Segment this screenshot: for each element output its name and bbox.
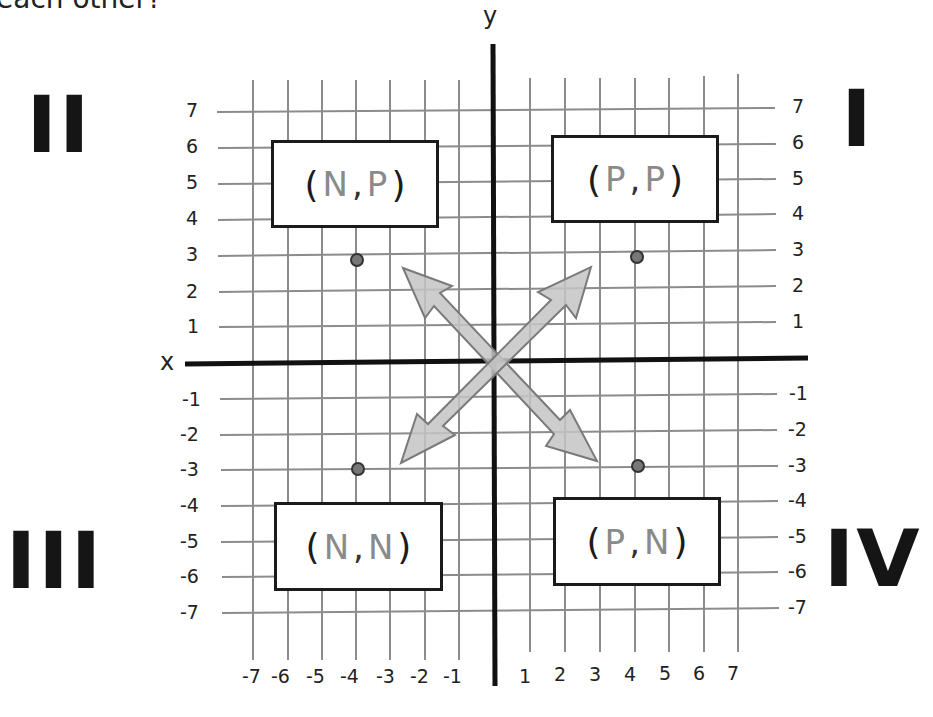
x-tick: 6 [693,664,705,683]
point-q2 [351,254,363,266]
y-tick-right: 7 [792,97,804,116]
y-tick-left: -1 [182,390,201,409]
x-tick: 7 [727,664,739,683]
y-sign: P [644,159,665,199]
y-tick-left: 7 [186,101,198,120]
open-paren: ( [306,526,320,567]
point-q3 [352,463,364,475]
x-tick: -6 [271,667,290,686]
y-tick-left: 1 [187,317,199,336]
x-tick: 5 [659,664,671,683]
y-tick-right: -4 [788,491,807,510]
y-tick-left: -6 [180,567,199,586]
x-tick: -5 [306,667,325,686]
y-tick-right: 4 [792,204,804,223]
close-paren: ) [391,164,405,205]
y-tick-right: -2 [788,420,807,439]
sign-box-quadrant-iv: ( P , N ) [553,497,721,586]
x-sign: P [605,159,626,199]
y-sign: P [367,164,388,204]
y-tick-left: 4 [186,209,198,228]
close-paren: ) [673,521,687,562]
y-tick-left: -5 [180,532,199,551]
sign-box-quadrant-ii: ( N , P ) [271,140,439,228]
y-sign: N [368,527,393,567]
open-paren: ( [587,521,601,562]
comma: , [630,159,641,199]
x-tick: 2 [554,665,566,684]
diagonal-arrows [401,267,597,463]
x-tick: -1 [443,667,462,686]
y-tick-left: -4 [180,496,199,515]
x-sign: N [324,527,349,567]
sign-box-quadrant-iii: ( N , N ) [274,502,443,591]
y-tick-left: -7 [180,603,199,622]
x-tick: -4 [340,667,359,686]
y-tick-right: -3 [788,456,807,475]
comma: , [353,527,364,567]
y-sign: N [644,522,669,562]
y-tick-right: -6 [788,562,807,581]
y-tick-left: 3 [186,245,198,264]
x-tick: -3 [376,667,395,686]
x-tick: -2 [410,667,429,686]
close-paren: ) [397,526,411,567]
y-tick-right: 6 [792,133,804,152]
open-paren: ( [305,164,319,205]
y-tick-left: -2 [180,425,199,444]
comma: , [629,522,640,562]
y-tick-right: 3 [792,240,804,259]
y-tick-left: 2 [186,282,198,301]
x-tick: 3 [589,665,601,684]
y-tick-right: -5 [788,527,807,546]
point-q1 [631,251,643,263]
x-tick: -7 [242,667,261,686]
close-paren: ) [669,159,683,200]
x-tick: 4 [624,665,636,684]
open-paren: ( [587,159,601,200]
y-tick-right: -7 [788,598,807,617]
comma: , [352,164,363,204]
y-tick-right: -1 [789,384,808,403]
y-tick-right: 1 [792,312,804,331]
y-tick-left: 6 [186,137,198,156]
x-tick: 1 [519,667,531,686]
y-tick-right: 5 [792,169,804,188]
point-q4 [632,460,644,472]
y-tick-right: 2 [792,276,804,295]
y-tick-left: 5 [186,173,198,192]
sign-box-quadrant-i: ( P , P ) [551,135,719,223]
y-tick-left: -3 [180,460,199,479]
x-sign: P [605,522,626,562]
x-sign: N [323,164,348,204]
